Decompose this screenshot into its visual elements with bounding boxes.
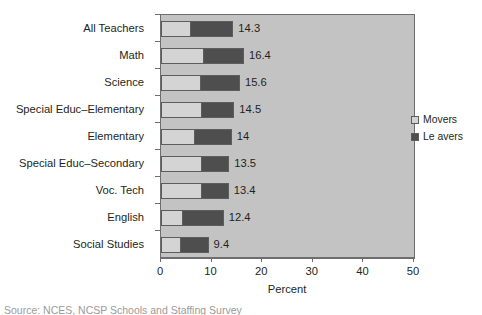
legend-label-leavers: Le avers [423, 131, 463, 143]
bar-value-label: 14 [237, 128, 249, 144]
bar-row[interactable] [161, 102, 234, 118]
x-axis-tick [362, 257, 363, 262]
category-label: Special Educ–Secondary [0, 157, 144, 169]
legend: Movers Le avers [411, 112, 481, 146]
bar-segment-movers[interactable] [161, 21, 191, 37]
x-axis-title: Percent [160, 283, 414, 295]
bar-segment-movers[interactable] [161, 75, 201, 91]
bar-row[interactable] [161, 75, 240, 91]
figure-caption: Source: NCES, NCSP Schools and Staffing … [4, 304, 434, 315]
category-label: Social Studies [0, 238, 144, 250]
bar-segment-movers[interactable] [161, 129, 195, 145]
plot-area [160, 14, 415, 259]
category-label: English [0, 211, 144, 223]
x-axis-tick [211, 257, 212, 262]
bar-value-label: 14.3 [238, 20, 260, 36]
legend-item-movers[interactable]: Movers [411, 112, 481, 127]
bar-segment-movers[interactable] [161, 237, 181, 253]
bar-segment-movers[interactable] [161, 210, 183, 226]
x-axis-tick-label: 0 [140, 265, 180, 278]
x-axis-tick-label: 30 [292, 265, 332, 278]
bar-row[interactable] [161, 210, 224, 226]
bar-row[interactable] [161, 21, 233, 37]
x-axis-tick-label: 40 [342, 265, 382, 278]
x-axis-tick [261, 257, 262, 262]
x-axis-line [160, 257, 414, 258]
category-label: Elementary [0, 130, 144, 142]
x-axis-tick-label: 10 [191, 265, 231, 278]
bar-segment-leavers[interactable] [180, 237, 208, 253]
bar-value-label: 9.4 [214, 236, 230, 252]
category-label: Science [0, 76, 144, 88]
bar-value-label: 15.6 [245, 74, 267, 90]
bar-value-label: 12.4 [229, 209, 251, 225]
x-axis-tick [413, 257, 414, 262]
bar-segment-movers[interactable] [161, 183, 202, 199]
bar-segment-leavers[interactable] [203, 48, 244, 64]
legend-item-leavers[interactable]: Le avers [411, 129, 481, 144]
x-axis-tick-label: 20 [241, 265, 281, 278]
bar-segment-movers[interactable] [161, 102, 202, 118]
bars-container [161, 15, 414, 258]
bar-row[interactable] [161, 237, 209, 253]
bar-segment-leavers[interactable] [201, 156, 229, 172]
category-axis-labels: All TeachersMathScienceSpecial Educ–Elem… [0, 14, 152, 257]
bar-value-label: 16.4 [249, 47, 271, 63]
bar-segment-leavers[interactable] [182, 210, 223, 226]
bar-row[interactable] [161, 48, 244, 64]
bar-segment-movers[interactable] [161, 156, 202, 172]
bar-segment-leavers[interactable] [190, 21, 233, 37]
category-label: All Teachers [0, 22, 144, 34]
bar-segment-leavers[interactable] [201, 183, 229, 199]
category-label: Special Educ–Elementary [0, 103, 144, 115]
bar-segment-movers[interactable] [161, 48, 204, 64]
category-label: Math [0, 49, 144, 61]
bar-row[interactable] [161, 129, 232, 145]
bar-value-label: 14.5 [239, 101, 261, 117]
bar-row[interactable] [161, 183, 229, 199]
stacked-bar-chart: All TeachersMathScienceSpecial Educ–Elem… [0, 0, 482, 315]
legend-swatch-leavers [411, 133, 419, 141]
x-axis-tick [312, 257, 313, 262]
bar-segment-leavers[interactable] [200, 75, 240, 91]
bar-value-label: 13.4 [234, 182, 256, 198]
bar-row[interactable] [161, 156, 229, 172]
legend-swatch-movers [411, 116, 419, 124]
bar-segment-leavers[interactable] [194, 129, 232, 145]
legend-label-movers: Movers [423, 114, 457, 126]
bar-segment-leavers[interactable] [201, 102, 234, 118]
x-axis-tick [160, 257, 161, 262]
x-axis-tick-label: 50 [393, 265, 433, 278]
bar-value-label: 13.5 [234, 155, 256, 171]
category-label: Voc. Tech [0, 184, 144, 196]
